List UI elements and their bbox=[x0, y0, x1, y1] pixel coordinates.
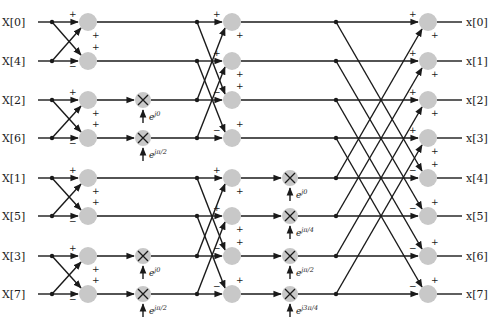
output-label: x[4] bbox=[466, 172, 488, 185]
adder-node bbox=[223, 247, 241, 265]
sign-label: + bbox=[92, 264, 100, 274]
twiddle-factor-label: ej0 bbox=[296, 188, 307, 200]
signal-line bbox=[52, 22, 81, 55]
adder-node bbox=[419, 247, 437, 265]
nodes bbox=[50, 13, 437, 303]
junction-dot bbox=[50, 292, 54, 296]
junction-dot bbox=[195, 136, 199, 140]
signal-line bbox=[52, 262, 81, 294]
junction-dot bbox=[195, 98, 199, 102]
signal-line bbox=[197, 178, 225, 250]
junction-dot bbox=[195, 176, 199, 180]
input-label: X[1] bbox=[2, 172, 25, 185]
input-label: X[3] bbox=[2, 250, 25, 263]
sign-label: + bbox=[69, 9, 77, 19]
sign-label: + bbox=[92, 42, 100, 52]
sign-label: + bbox=[431, 237, 439, 247]
sign-label: − bbox=[409, 281, 417, 291]
twiddle-factor-label: ej0 bbox=[149, 266, 160, 278]
output-label: x[1] bbox=[466, 55, 488, 68]
adder-node bbox=[79, 13, 97, 31]
sign-label: + bbox=[236, 81, 244, 91]
output-label: x[5] bbox=[466, 210, 488, 223]
adder-node bbox=[419, 207, 437, 225]
sign-label: + bbox=[92, 197, 100, 207]
sign-label: + bbox=[431, 108, 439, 118]
signal-line bbox=[197, 67, 225, 138]
sign-label: + bbox=[431, 159, 439, 169]
sign-label: + bbox=[431, 197, 439, 207]
adder-node bbox=[223, 91, 241, 109]
labels: X[0]X[4]X[2]X[6]X[1]X[5]X[3]X[7]+++−+++−… bbox=[2, 9, 488, 316]
sign-label: − bbox=[213, 281, 221, 291]
junction-dot bbox=[50, 254, 54, 258]
twiddle-factor-label: ejπ/2 bbox=[149, 148, 167, 160]
sign-label: − bbox=[213, 125, 221, 135]
adder-node bbox=[79, 52, 97, 70]
junction-dot bbox=[195, 292, 199, 296]
junction-dot bbox=[50, 98, 54, 102]
input-label: X[0] bbox=[2, 16, 25, 29]
adder-node bbox=[419, 13, 437, 31]
junction-dot bbox=[50, 136, 54, 140]
sign-label: + bbox=[69, 165, 77, 175]
input-label: X[2] bbox=[2, 94, 25, 107]
twiddle-factor-label: ejπ/2 bbox=[296, 266, 314, 278]
sign-label: + bbox=[236, 237, 244, 247]
sign-label: + bbox=[236, 69, 244, 79]
sign-label: + bbox=[213, 48, 221, 58]
sign-label: + bbox=[236, 119, 244, 129]
input-label: X[6] bbox=[2, 132, 25, 145]
twiddle-factor-label: ej3π/4 bbox=[296, 304, 318, 316]
sign-label: + bbox=[236, 186, 244, 196]
signal-line bbox=[52, 106, 81, 138]
sign-label: + bbox=[69, 87, 77, 97]
adder-node bbox=[419, 169, 437, 187]
signal-line bbox=[52, 28, 81, 61]
output-label: x[7] bbox=[466, 288, 488, 301]
adder-node bbox=[419, 91, 437, 109]
adder-node bbox=[79, 207, 97, 225]
sign-label: + bbox=[92, 275, 100, 285]
junction-dot bbox=[334, 292, 338, 296]
adder-node bbox=[79, 169, 97, 187]
adder-node bbox=[79, 129, 97, 147]
junction-dot bbox=[50, 59, 54, 63]
signal-line bbox=[52, 184, 81, 216]
sign-label: + bbox=[236, 224, 244, 234]
adder-node bbox=[223, 129, 241, 147]
signal-line bbox=[336, 61, 422, 209]
sign-label: + bbox=[409, 48, 417, 58]
junction-dot bbox=[334, 136, 338, 140]
output-label: x[0] bbox=[466, 16, 488, 29]
sign-label: + bbox=[236, 275, 244, 285]
junction-dot bbox=[334, 98, 338, 102]
junction-dot bbox=[195, 214, 199, 218]
junction-dot bbox=[334, 254, 338, 258]
output-label: x[6] bbox=[466, 250, 488, 263]
sign-label: + bbox=[409, 9, 417, 19]
twiddle-factor-label: ej0 bbox=[149, 110, 160, 122]
sign-label: − bbox=[409, 243, 417, 253]
adder-node bbox=[79, 91, 97, 109]
signal-line bbox=[52, 256, 81, 288]
signal-line bbox=[52, 178, 81, 210]
signal-line bbox=[197, 28, 225, 100]
signal-line bbox=[197, 222, 225, 294]
sign-label: + bbox=[431, 69, 439, 79]
signal-line bbox=[52, 100, 81, 132]
sign-label: + bbox=[213, 9, 221, 19]
junction-dot bbox=[50, 214, 54, 218]
junction-dot bbox=[334, 214, 338, 218]
sign-label: − bbox=[213, 87, 221, 97]
junction-dot bbox=[50, 176, 54, 180]
sign-label: + bbox=[409, 87, 417, 97]
sign-label: + bbox=[69, 243, 77, 253]
sign-label: + bbox=[92, 108, 100, 118]
signal-line bbox=[197, 216, 225, 288]
adder-node bbox=[79, 247, 97, 265]
adder-node bbox=[223, 285, 241, 303]
adder-node bbox=[419, 52, 437, 70]
sign-label: + bbox=[92, 119, 100, 129]
sign-label: − bbox=[69, 138, 77, 148]
